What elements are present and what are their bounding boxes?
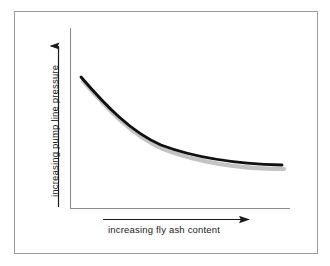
axis-arrows bbox=[59, 46, 250, 220]
axis-lines bbox=[70, 28, 290, 209]
y-axis-label: increasing pump line pressure bbox=[50, 65, 60, 197]
data-curve-shadow bbox=[83, 81, 284, 169]
x-axis-label: increasing fly ash content bbox=[108, 225, 220, 235]
data-curve bbox=[81, 77, 282, 165]
data-curve-group bbox=[81, 77, 284, 169]
